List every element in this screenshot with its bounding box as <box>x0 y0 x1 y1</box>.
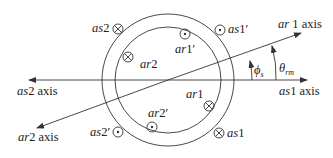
ar2-cross-icon <box>123 52 133 62</box>
ar1-cross-icon <box>204 101 214 111</box>
as1-prime-dot-icon <box>215 25 225 35</box>
ar2-prime-conductor-label: ar2′ <box>148 106 168 120</box>
ar1-axis-label: ar 1 axis <box>278 17 322 31</box>
as1-axis-label: as1 axis <box>279 84 320 98</box>
ar1-prime-conductor-label: ar1′ <box>175 42 195 56</box>
ar1-region-label: ar1 <box>186 87 203 101</box>
ar2-axis-label: ar2 axis <box>18 130 59 144</box>
as1-cross-icon <box>214 128 224 138</box>
as2-prime-conductor-label: as2′ <box>90 125 110 139</box>
theta-rm-arc <box>272 46 276 80</box>
as1-prime-conductor-label: as1′ <box>228 22 248 36</box>
machine-axes-diagram: ar 1 axis as1 axis as2 axis ar2 axis ϕs … <box>0 0 333 158</box>
as2-axis-label: as2 axis <box>17 84 58 98</box>
as2-prime-dot-icon <box>113 127 123 137</box>
phi-s-arc <box>250 61 252 80</box>
as2-cross-icon <box>113 24 123 34</box>
ar2-region-label: ar2 <box>140 57 157 71</box>
as1-conductor-label: as1 <box>227 126 244 140</box>
theta-rm-label: θrm <box>279 61 294 77</box>
ar1-prime-dot-icon <box>180 29 190 39</box>
phi-s-label: ϕs <box>254 63 264 79</box>
as2-conductor-label: as2 <box>92 21 109 35</box>
